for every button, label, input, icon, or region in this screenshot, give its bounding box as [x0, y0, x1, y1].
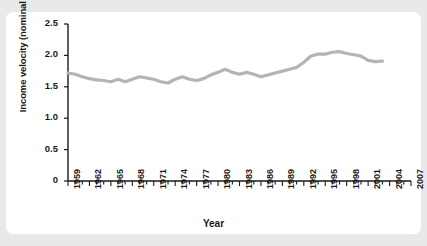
y-tick-label: 2.0 [28, 48, 58, 59]
x-tick-label: 2007 [415, 169, 425, 189]
y-tick-label: 0.5 [28, 143, 58, 154]
y-tick-label: 2.5 [28, 17, 58, 28]
plot-area [0, 0, 427, 246]
x-tick-label: 1989 [286, 169, 296, 189]
x-tick-label: 1971 [158, 169, 168, 189]
data-series-group [68, 52, 382, 83]
x-axis-title: Year [0, 218, 427, 229]
data-line-0 [68, 52, 382, 83]
x-tick-label: 1986 [265, 169, 275, 189]
x-tick-label: 1968 [136, 169, 146, 189]
page-root: Income velocity (nominal GDP/M2) Year 00… [0, 0, 427, 246]
y-tick-label: 0 [28, 174, 58, 185]
line-chart-figure: Income velocity (nominal GDP/M2) Year 00… [0, 0, 427, 246]
x-tick-label: 1974 [179, 169, 189, 189]
x-tick-label: 1962 [93, 169, 103, 189]
x-tick-label: 1992 [308, 169, 318, 189]
y-tick-label: 1.0 [28, 111, 58, 122]
y-axis-title-text: Income velocity (nominal GDP/M2) [17, 0, 28, 112]
x-tick-label: 1995 [329, 169, 339, 189]
x-tick-label: 2001 [372, 169, 382, 189]
axes-group [68, 24, 411, 181]
x-tick-label: 1980 [222, 169, 232, 189]
x-tick-label: 1965 [115, 169, 125, 189]
x-tick-label: 1998 [351, 169, 361, 189]
x-tick-label: 1959 [72, 169, 82, 189]
tick-marks-group [64, 24, 411, 186]
x-tick-label: 1977 [201, 169, 211, 189]
x-tick-label: 1983 [244, 169, 254, 189]
x-tick-label: 2004 [394, 169, 404, 189]
y-tick-label: 1.5 [28, 80, 58, 91]
